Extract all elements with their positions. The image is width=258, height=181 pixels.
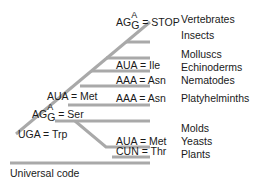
root-label: Universal code xyxy=(10,167,79,179)
codon-thr: CUN = Thr xyxy=(116,145,166,157)
taxon-nematodes: Nematodes xyxy=(181,74,235,86)
taxon-vertebrates: Vertebrates xyxy=(181,13,235,25)
codon-stop: AGAG = STOP xyxy=(116,16,180,28)
taxon-echinoderms: Echinoderms xyxy=(181,61,242,73)
codon-asn-platyhelminths: AAA = Asn xyxy=(116,92,166,104)
taxon-molluscs: Molluscs xyxy=(181,48,222,60)
codon-asn-nematodes: AAA = Asn xyxy=(116,74,166,86)
taxon-insects: Insects xyxy=(181,29,214,41)
codon-ser: AGAG = Ser xyxy=(32,108,84,120)
codon-ile: AUA = Ile xyxy=(116,59,160,71)
codon-trp: UGA = Trp xyxy=(18,128,67,140)
taxon-platyhelminths: Platyhelminths xyxy=(181,92,249,104)
codon-met-main: AUA = Met xyxy=(47,90,97,102)
taxon-plants: Plants xyxy=(181,148,210,160)
taxon-yeasts: Yeasts xyxy=(181,135,212,147)
taxon-molds: Molds xyxy=(181,122,209,134)
